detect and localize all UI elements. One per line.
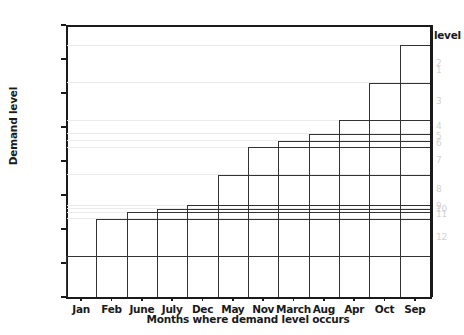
y-tick — [61, 24, 66, 26]
y-tick — [61, 194, 66, 196]
x-tick — [262, 297, 264, 301]
legend-item-8: 8 — [436, 184, 462, 194]
x-tick — [323, 297, 325, 301]
x-tick — [384, 297, 386, 301]
legend-item-6: 6 — [436, 138, 462, 148]
x-tick — [111, 297, 113, 301]
y-tick — [61, 126, 66, 128]
x-tick — [353, 297, 355, 301]
x-tick — [232, 297, 234, 301]
y-tick — [61, 58, 66, 60]
legend-title: level — [434, 29, 461, 41]
plot-top-border — [66, 25, 432, 27]
gridline — [67, 45, 430, 46]
legend-item-7: 7 — [436, 155, 462, 165]
right-axis-line — [430, 25, 433, 297]
y-tick — [61, 92, 66, 94]
legend-item-11: 11 — [436, 209, 462, 219]
x-tick — [293, 297, 295, 301]
x-tick — [80, 297, 82, 301]
y-tick — [61, 160, 66, 162]
y-tick — [61, 228, 66, 230]
legend-item-12: 12 — [436, 232, 462, 242]
legend-item-4: 4 — [436, 121, 462, 131]
x-tick — [414, 297, 416, 301]
chart-root: Demand level Months where demand level o… — [0, 0, 464, 335]
x-tick — [141, 297, 143, 301]
step-level-12 — [66, 256, 430, 297]
x-tick — [171, 297, 173, 301]
x-axis-line — [66, 297, 432, 299]
level-legend: level 123456789101112 — [434, 25, 464, 305]
legend-item-3: 3 — [436, 96, 462, 106]
plot-area: 05001000150020002500300035004000 JanFebJ… — [66, 25, 430, 297]
x-tick — [202, 297, 204, 301]
y-axis-title: Demand level — [7, 66, 19, 186]
legend-item-2: 2 — [436, 58, 462, 68]
